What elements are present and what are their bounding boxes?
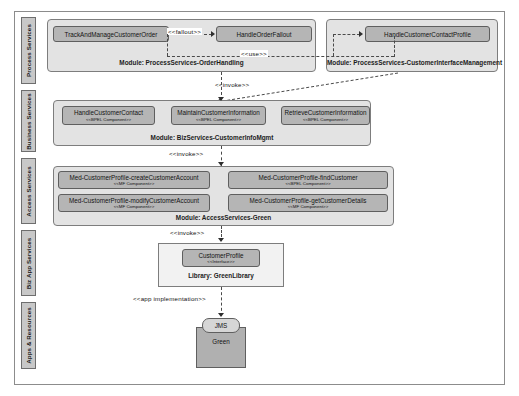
component-med-customer-profile-get-customer-details[interactable]: Med-CustomerProfile-getCustomerDetails <…	[228, 194, 388, 212]
edge-use-hline	[167, 56, 394, 57]
component-med-create-account-name: Med-CustomerProfile-createCustomerAccoun…	[69, 174, 198, 181]
component-med-find-customer-stereotype: <<BPEL Component>>	[285, 181, 330, 186]
module-process-order-handling-caption: Module: ProcessServices-OrderHandling	[48, 59, 315, 66]
component-handle-customer-contact-profile[interactable]: HandleCustomerContactProfile	[365, 26, 490, 42]
lane-label-access-services-text: Access Services	[25, 166, 32, 216]
component-customer-profile-stereotype: <<Interface>>	[207, 259, 234, 264]
component-retrieve-customer-information-stereotype: <<BPEL Component>>	[303, 117, 348, 122]
component-med-customer-profile-find-customer[interactable]: Med-CustomerProfile-findCustomer <<BPEL …	[228, 171, 388, 189]
component-maintain-customer-information-name: MaintainCustomerInformation	[177, 109, 260, 116]
component-maintain-customer-information-stereotype: <<BPEL Component>>	[196, 117, 241, 122]
edge-contact-profile-vline	[333, 34, 334, 56]
component-customer-profile[interactable]: CustomerProfile <<Interface>>	[182, 249, 260, 267]
library-green-library-caption: Library: GreenLibrary	[158, 272, 284, 279]
component-track-and-manage-customer-order-name: TrackAndManageCustomerOrder	[65, 31, 158, 38]
edge-invoke-business-vline	[221, 72, 222, 100]
component-handle-order-fallout-name: HandleOrderFallout	[237, 31, 292, 38]
component-med-create-account-stereotype: <<MF Component>>	[114, 181, 155, 186]
diagram-canvas: Process Services Business Services Acces…	[0, 0, 519, 396]
edge-label-app-implementation: <<app implementation>>	[132, 295, 207, 302]
edge-use-vline-left	[167, 34, 168, 56]
component-med-modify-account-stereotype: <<MF Component>>	[114, 204, 155, 209]
edge-label-invoke-access: <<invoke>>	[168, 150, 204, 157]
component-retrieve-customer-information-name: RetrieveCustomerInformation	[284, 109, 366, 116]
edge-label-fallout: <<fallout>>	[167, 28, 202, 35]
component-med-get-details-name: Med-CustomerProfile-getCustomerDetails	[250, 197, 367, 204]
component-track-and-manage-customer-order[interactable]: TrackAndManageCustomerOrder	[53, 26, 169, 42]
resource-jms-queue-label: JMS	[215, 322, 228, 329]
component-med-customer-profile-modify-customer-account[interactable]: Med-CustomerProfile-modifyCustomerAccoun…	[58, 194, 210, 212]
lane-label-biz-app-services: Biz App Services	[21, 230, 36, 296]
component-med-customer-profile-create-customer-account[interactable]: Med-CustomerProfile-createCustomerAccoun…	[58, 171, 210, 189]
component-handle-customer-contact-profile-name: HandleCustomerContactProfile	[384, 31, 471, 38]
lane-label-biz-app-services-text: Biz App Services	[25, 237, 32, 289]
module-access-services-green-caption: Module: AccessServices-Green	[54, 214, 393, 221]
resource-jms-queue[interactable]: JMS	[202, 318, 240, 333]
edge-app-implementation-arrowhead	[218, 313, 224, 317]
edge-label-use: <<use>>	[240, 50, 268, 57]
edge-invoke-business-vline-arrowhead	[218, 97, 224, 101]
component-maintain-customer-information[interactable]: MaintainCustomerInformation <<BPEL Compo…	[171, 106, 266, 125]
component-med-modify-account-name: Med-CustomerProfile-modifyCustomerAccoun…	[69, 197, 199, 204]
resource-green-system-label: Green	[212, 338, 230, 345]
edge-invoke-bizapp-arrowhead	[218, 238, 224, 242]
module-biz-services-customer-info-mgmt-caption: Module: BizServices-CustomerInfoMgmt	[54, 134, 370, 141]
edge-app-implementation-vline	[221, 287, 222, 316]
module-process-customer-interface-management-caption: Module: ProcessServices-CustomerInterfac…	[327, 59, 497, 66]
edge-fallout-arrowhead	[211, 31, 215, 37]
edge-label-invoke-business: <<invoke>>	[214, 81, 250, 88]
lane-label-access-services: Access Services	[21, 158, 36, 224]
lane-label-process-services-text: Process Services	[25, 24, 32, 77]
edge-invoke-access-arrowhead	[218, 162, 224, 166]
component-handle-customer-contact[interactable]: HandleCustomerContact <<BPEL Component>>	[62, 106, 155, 125]
lane-label-apps-resources: Apps & Resources	[21, 302, 36, 369]
lane-label-apps-resources-text: Apps & Resources	[25, 307, 32, 364]
lane-label-process-services: Process Services	[21, 17, 36, 84]
edge-label-invoke-bizapp: <<invoke>>	[169, 229, 205, 236]
component-customer-profile-name: CustomerProfile	[198, 252, 243, 259]
lane-label-business-services-text: Business Services	[25, 93, 32, 149]
edge-contact-profile-hline	[333, 34, 360, 35]
component-med-get-details-stereotype: <<MF Component>>	[288, 204, 329, 209]
lane-label-business-services: Business Services	[21, 90, 36, 152]
component-handle-customer-contact-name: HandleCustomerContact	[74, 109, 143, 116]
component-handle-order-fallout[interactable]: HandleOrderFallout	[216, 26, 312, 42]
edge-contact-profile-arrowhead	[359, 31, 363, 37]
edge-use-vline-right	[394, 36, 395, 57]
resource-green-system[interactable]: Green	[196, 327, 246, 368]
component-retrieve-customer-information[interactable]: RetrieveCustomerInformation <<BPEL Compo…	[281, 106, 370, 125]
component-handle-customer-contact-stereotype: <<BPEL Component>>	[86, 117, 131, 122]
component-med-find-customer-name: Med-CustomerProfile-findCustomer	[258, 174, 357, 181]
